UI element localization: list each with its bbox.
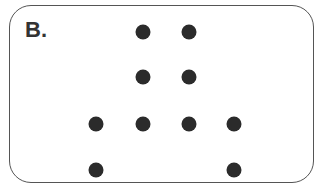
dot (182, 70, 197, 85)
dot (182, 117, 197, 132)
dot (89, 117, 104, 132)
panel-label: B. (25, 17, 47, 43)
panel-frame (9, 5, 314, 183)
dot (136, 70, 151, 85)
dot (136, 117, 151, 132)
dot (136, 25, 151, 40)
dot (227, 117, 242, 132)
dot (89, 163, 104, 178)
dot (182, 25, 197, 40)
dot (227, 163, 242, 178)
